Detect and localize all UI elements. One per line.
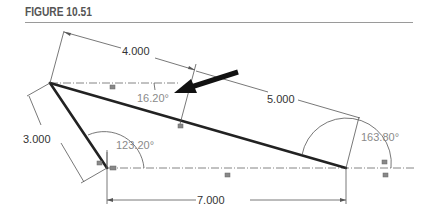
horizontal-relation-icon bbox=[110, 85, 115, 89]
dimension-lines bbox=[27, 31, 391, 204]
dim-line-3a bbox=[29, 96, 41, 125]
relation-icon-right bbox=[382, 160, 387, 164]
ext-line-5-end bbox=[346, 117, 359, 168]
horizontal-relation-icon-bottom bbox=[225, 173, 230, 177]
dimension-arrowheads bbox=[64, 32, 346, 202]
ext-line-3 bbox=[27, 83, 50, 96]
ext-line-3-end bbox=[81, 168, 107, 183]
sketch-diagram: 4.000 5.000 3.000 7.000 16.20° 123.20° 1… bbox=[0, 0, 432, 223]
relation-icon-diag bbox=[178, 124, 183, 128]
angle-163[interactable]: 163.80° bbox=[361, 131, 399, 143]
callout-arrow-head-icon bbox=[174, 79, 197, 93]
dim-line-4a bbox=[64, 32, 121, 48]
dim-line-5b bbox=[298, 100, 360, 118]
relation-icon-left bbox=[97, 161, 102, 165]
dim-line-3b bbox=[61, 143, 84, 182]
arrowhead-4-start bbox=[64, 32, 71, 36]
arrowhead-7-start bbox=[107, 198, 113, 202]
sketch-lines bbox=[50, 83, 346, 168]
callout-arrow bbox=[174, 72, 238, 93]
tick-16 bbox=[154, 83, 155, 90]
dimension-3[interactable]: 3.000 bbox=[23, 133, 51, 145]
dimension-4[interactable]: 4.000 bbox=[122, 45, 150, 57]
angle-16[interactable]: 16.20° bbox=[137, 92, 169, 104]
relation-icon-right-bottom bbox=[383, 173, 388, 177]
ext-line-4-end bbox=[180, 64, 196, 124]
centerlines bbox=[50, 83, 415, 168]
callout-arrow-shaft bbox=[188, 72, 238, 88]
arrowhead-4-end bbox=[188, 66, 195, 70]
fixed-point-icon bbox=[110, 166, 116, 170]
ext-line-4 bbox=[50, 31, 64, 83]
line-diagonal[interactable] bbox=[50, 83, 346, 168]
arrowhead-7-end bbox=[340, 198, 346, 202]
dimension-5[interactable]: 5.000 bbox=[267, 93, 295, 105]
angle-123[interactable]: 123.20° bbox=[116, 139, 154, 151]
dimension-7[interactable]: 7.000 bbox=[197, 194, 225, 206]
